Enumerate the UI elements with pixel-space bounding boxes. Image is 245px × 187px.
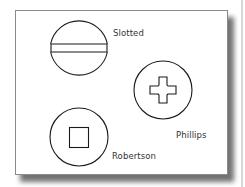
- robertson-label: Robertson: [112, 151, 156, 161]
- robertson-screw-head-icon: [50, 108, 108, 166]
- phillips-label: Phillips: [176, 130, 207, 140]
- slotted-screw-head-icon: [51, 21, 108, 75]
- phillips-screw-head-icon: [134, 61, 192, 119]
- slotted-label: Slotted: [113, 28, 144, 38]
